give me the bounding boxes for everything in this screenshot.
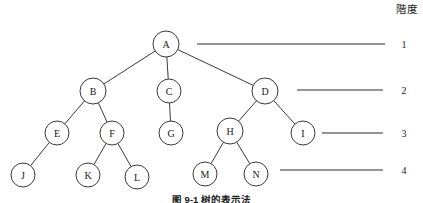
level-number-4: 4 — [402, 165, 407, 176]
node-label-b: B — [90, 86, 97, 97]
tree-node-i[interactable]: I — [291, 121, 315, 145]
tree-edge-b-f — [98, 103, 107, 122]
tree-edge-e-j — [31, 142, 50, 165]
level-number-3: 3 — [402, 128, 407, 139]
tree-edge-a-c — [167, 57, 168, 79]
node-label-m: M — [201, 169, 210, 180]
tree-edge-f-k — [94, 143, 106, 164]
tree-edge-d-i — [274, 101, 295, 124]
node-label-h: H — [226, 126, 233, 137]
tree-node-j[interactable]: J — [11, 163, 35, 187]
tree-node-g[interactable]: G — [159, 121, 183, 145]
tree-edge-a-b — [104, 51, 155, 84]
level-rules-group: 1234 — [197, 39, 407, 176]
node-label-a: A — [162, 39, 170, 50]
tree-node-l[interactable]: L — [125, 165, 149, 189]
tree-node-n[interactable]: N — [244, 162, 268, 186]
node-label-j: J — [21, 170, 25, 181]
tree-node-h[interactable]: H — [217, 118, 243, 144]
tree-node-m[interactable]: M — [193, 162, 217, 186]
node-label-g: G — [167, 128, 174, 139]
node-label-d: D — [261, 86, 268, 97]
node-label-l: L — [134, 172, 140, 183]
figure-caption: 图 9-1 树的表示法 — [0, 192, 423, 203]
tree-edges-group — [31, 50, 295, 167]
tree-node-k[interactable]: K — [76, 163, 100, 187]
node-label-k: K — [84, 170, 92, 181]
tree-edge-h-n — [237, 142, 250, 164]
tree-diagram: ABCDEFGHIJKLMN 1234 — [0, 0, 423, 203]
tree-edge-f-l — [118, 143, 131, 166]
tree-nodes-group: ABCDEFGHIJKLMN — [11, 31, 315, 189]
tree-node-f[interactable]: F — [100, 121, 124, 145]
tree-node-a[interactable]: A — [153, 31, 179, 57]
tree-node-e[interactable]: E — [45, 121, 69, 145]
figure-container: ABCDEFGHIJKLMN 1234 階度 图 9-1 树的表示法 — [0, 0, 423, 203]
level-column-header: 階度 — [396, 1, 417, 16]
node-label-i: I — [301, 128, 304, 139]
level-number-1: 1 — [402, 39, 407, 50]
level-number-2: 2 — [402, 85, 407, 96]
tree-node-c[interactable]: C — [157, 79, 181, 103]
tree-edge-a-d — [178, 50, 254, 86]
node-label-e: E — [54, 128, 60, 139]
tree-node-b[interactable]: B — [80, 78, 106, 104]
node-label-c: C — [166, 86, 173, 97]
tree-edge-h-m — [211, 142, 223, 163]
tree-edge-c-g — [170, 103, 171, 121]
node-label-n: N — [252, 169, 259, 180]
tree-edge-b-e — [65, 101, 85, 124]
node-label-f: F — [109, 128, 115, 139]
tree-edge-d-h — [239, 101, 257, 121]
tree-node-d[interactable]: D — [252, 78, 278, 104]
